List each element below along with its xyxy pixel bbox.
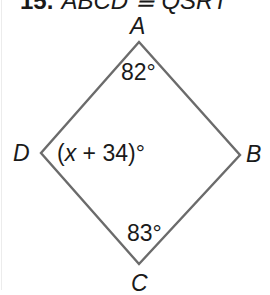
angle-c-measure: 83° — [127, 222, 162, 245]
vertex-label-c: C — [131, 272, 148, 295]
vertex-label-b: B — [246, 143, 261, 166]
angle-d-variable: x — [65, 140, 77, 166]
angle-d-expression: + 34)° — [76, 140, 145, 166]
vertex-label-d: D — [13, 142, 30, 165]
angle-a-measure: 82° — [121, 61, 156, 84]
vertex-label-a: A — [130, 15, 145, 38]
angle-d-open-paren: ( — [57, 140, 65, 166]
angle-d-measure: (x + 34)° — [57, 142, 145, 165]
